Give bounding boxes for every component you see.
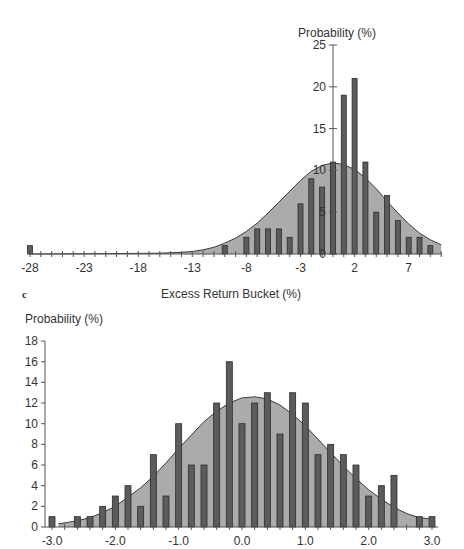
histogram-bar bbox=[255, 229, 260, 254]
bottom-y-axis-title: Probability (%) bbox=[25, 312, 103, 326]
histogram-bar bbox=[353, 465, 359, 527]
histogram-bar bbox=[125, 486, 131, 527]
histogram-bar bbox=[150, 455, 156, 527]
x-tick-label: 7 bbox=[405, 261, 412, 275]
histogram-bar bbox=[266, 229, 271, 254]
histogram-bar bbox=[252, 403, 258, 527]
histogram-bar bbox=[239, 424, 245, 527]
x-tick-label: -13 bbox=[184, 261, 202, 275]
histogram-bar bbox=[276, 229, 281, 254]
histogram-bar bbox=[226, 362, 232, 527]
density-area bbox=[30, 163, 441, 254]
histogram-bar bbox=[112, 496, 118, 527]
y-tick-label: 0 bbox=[319, 247, 326, 261]
histogram-bar bbox=[363, 162, 368, 254]
histogram-bar bbox=[385, 195, 390, 254]
histogram-bar bbox=[298, 204, 303, 254]
histogram-bar bbox=[328, 444, 334, 527]
x-tick-label: 3.0 bbox=[424, 534, 441, 548]
y-tick-label: 5 bbox=[319, 205, 326, 219]
histogram-bar bbox=[214, 403, 220, 527]
histogram-bar bbox=[277, 434, 283, 527]
histogram-bar bbox=[320, 187, 325, 254]
histogram-bar bbox=[340, 455, 346, 527]
y-tick-label: 8 bbox=[31, 437, 38, 451]
x-tick-label: -18 bbox=[130, 261, 148, 275]
x-tick-label: 2 bbox=[351, 261, 358, 275]
top-histogram-chart: -28-23-18-13-8-3270510152025 bbox=[21, 38, 442, 275]
y-tick-label: 16 bbox=[25, 355, 39, 369]
x-tick-label: -3 bbox=[295, 261, 306, 275]
histogram-bar bbox=[163, 496, 169, 527]
histogram-bar bbox=[366, 496, 372, 527]
y-tick-label: 12 bbox=[25, 396, 39, 410]
histogram-bar bbox=[309, 179, 314, 254]
histogram-bar bbox=[315, 455, 321, 527]
histogram-bar bbox=[395, 221, 400, 254]
y-tick-label: 0 bbox=[31, 520, 38, 534]
histogram-bar bbox=[188, 465, 194, 527]
y-tick-label: 6 bbox=[31, 458, 38, 472]
x-tick-label: 1.0 bbox=[297, 534, 314, 548]
histogram-bar bbox=[352, 78, 357, 254]
y-tick-label: 4 bbox=[31, 479, 38, 493]
histogram-bar bbox=[100, 506, 106, 527]
x-tick-label: -8 bbox=[241, 261, 252, 275]
x-tick-label: -3.0 bbox=[42, 534, 63, 548]
x-tick-label: -1.0 bbox=[168, 534, 189, 548]
y-tick-label: 25 bbox=[313, 38, 327, 52]
histogram-bar bbox=[176, 424, 182, 527]
y-tick-label: 15 bbox=[313, 122, 327, 136]
x-tick-label: -23 bbox=[75, 261, 93, 275]
y-tick-label: 2 bbox=[31, 499, 38, 513]
top-y-axis-title: Probability (%) bbox=[298, 26, 376, 40]
histogram-bar bbox=[378, 486, 384, 527]
histogram-bar bbox=[374, 212, 379, 254]
y-tick-label: 14 bbox=[25, 375, 39, 389]
histogram-bar bbox=[391, 475, 397, 527]
y-tick-label: 20 bbox=[313, 80, 327, 94]
histogram-bar bbox=[201, 465, 207, 527]
chart-canvas: -28-23-18-13-8-3270510152025 Probability… bbox=[0, 0, 464, 549]
y-tick-label: 10 bbox=[313, 163, 327, 177]
x-tick-label: -2.0 bbox=[105, 534, 126, 548]
histogram-bar bbox=[341, 95, 346, 254]
x-tick-label: 2.0 bbox=[360, 534, 377, 548]
histogram-bar bbox=[290, 393, 296, 527]
histogram-bar bbox=[138, 506, 144, 527]
x-tick-label: 0.0 bbox=[234, 534, 251, 548]
histogram-bar bbox=[264, 393, 270, 527]
panel-label-c: c bbox=[22, 288, 27, 300]
y-tick-label: 10 bbox=[25, 417, 39, 431]
top-x-axis-title: Excess Return Bucket (%) bbox=[161, 287, 301, 301]
y-tick-label: 18 bbox=[25, 334, 39, 348]
bottom-histogram-chart: -3.0-2.0-1.00.01.02.03.0024681012141618 bbox=[25, 334, 441, 548]
histogram-bar bbox=[302, 403, 308, 527]
x-tick-label: -28 bbox=[21, 261, 39, 275]
